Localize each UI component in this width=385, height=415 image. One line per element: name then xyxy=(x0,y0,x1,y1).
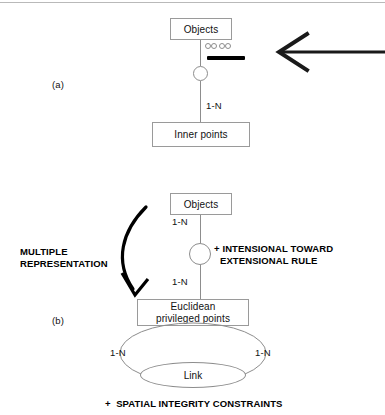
euclidean-line1: Euclidean xyxy=(171,301,216,312)
selection-handle-icon xyxy=(211,43,217,49)
relationship-ellipse-link[interactable]: Link xyxy=(140,362,246,388)
entity-box-inner-points[interactable]: Inner points xyxy=(152,122,250,147)
selection-bar-marker xyxy=(207,56,245,60)
intensional-rule-line1: + INTENSIONAL TOWARD xyxy=(214,243,333,254)
selection-handle-pair-right xyxy=(219,43,231,49)
cardinality-label-a: 1-N xyxy=(206,101,222,111)
selection-handles-marker[interactable] xyxy=(205,43,231,49)
connector-line-objects-a-to-circle xyxy=(200,40,201,66)
selection-handle-icon xyxy=(225,43,231,49)
selection-handle-pair-left xyxy=(205,43,217,49)
intensional-rule-note: + INTENSIONAL TOWARDEXTENSIONAL RULE xyxy=(214,243,333,266)
callout-arrow-icon xyxy=(277,32,385,72)
relationship-circle-b[interactable] xyxy=(189,243,211,265)
panel-a-tag: (a) xyxy=(52,79,64,90)
diagram-canvas: (a) Objects 1-N Inner points (b) Objects… xyxy=(0,0,385,415)
connector-line-circle-to-euclidean xyxy=(200,265,201,299)
connector-line-objects-b-to-circle xyxy=(200,215,201,243)
cardinality-label-b-right: 1-N xyxy=(255,348,271,358)
cardinality-label-b-left: 1-N xyxy=(110,348,126,358)
multiple-representation-arrow-icon xyxy=(104,205,190,307)
connector-line-circle-to-inner-points xyxy=(200,81,201,122)
panel-b-tag: (b) xyxy=(52,315,64,326)
intensional-rule-line2: EXTENSIONAL RULE xyxy=(214,255,318,267)
relationship-circle-a[interactable] xyxy=(193,66,208,81)
multiple-representation-line2: REPRESENTATION xyxy=(20,258,108,269)
page-top-rule xyxy=(0,2,385,3)
multiple-representation-line1: MULTIPLE xyxy=(20,246,68,257)
footer-note: + SPATIAL INTEGRITY CONSTRAINTS xyxy=(105,398,282,410)
multiple-representation-note: MULTIPLEREPRESENTATION xyxy=(20,246,108,269)
entity-box-objects-a[interactable]: Objects xyxy=(170,18,232,40)
